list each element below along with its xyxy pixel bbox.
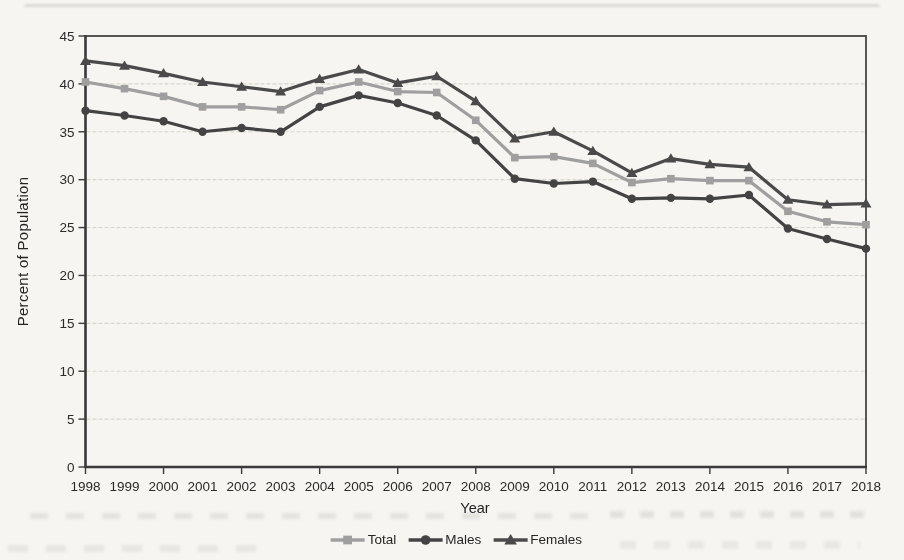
x-axis-title: Year bbox=[460, 500, 489, 516]
legend-item-males: Males bbox=[407, 532, 481, 547]
y-tick-label-0: 0 bbox=[67, 460, 75, 475]
legend-item-females: Females bbox=[492, 532, 582, 547]
y-tick-label-40: 40 bbox=[59, 77, 74, 92]
y-tick-label-5: 5 bbox=[67, 412, 75, 427]
x-tick-label-2001: 2001 bbox=[188, 479, 218, 494]
x-tick-label-2008: 2008 bbox=[461, 479, 491, 494]
legend-label-males: Males bbox=[445, 532, 481, 547]
data-series bbox=[80, 56, 872, 253]
y-tick-label-20: 20 bbox=[59, 268, 74, 283]
legend-label-females: Females bbox=[530, 532, 582, 547]
chart-canvas: 051015202530354045 199819992000200120022… bbox=[0, 0, 904, 528]
x-tick-label-2015: 2015 bbox=[734, 479, 764, 494]
legend-item-total: Total bbox=[330, 532, 397, 547]
line-chart-figure: 051015202530354045 199819992000200120022… bbox=[0, 0, 904, 560]
x-tick-label-2002: 2002 bbox=[227, 479, 257, 494]
y-tick-label-45: 45 bbox=[59, 29, 74, 44]
x-tick-label-2011: 2011 bbox=[578, 479, 607, 494]
x-tick-label-2016: 2016 bbox=[773, 479, 803, 494]
x-tick-label-2006: 2006 bbox=[383, 479, 413, 494]
x-tick-label-1999: 1999 bbox=[110, 479, 140, 494]
series-males-line bbox=[81, 91, 870, 253]
x-tick-label-2013: 2013 bbox=[656, 479, 686, 494]
x-tick-label-2007: 2007 bbox=[422, 479, 452, 494]
x-tick-label-2010: 2010 bbox=[539, 479, 569, 494]
y-axis-tick-labels: 051015202530354045 bbox=[59, 29, 74, 475]
chart-legend: Total Males Females bbox=[330, 532, 582, 547]
x-tick-label-2005: 2005 bbox=[344, 479, 374, 494]
axis-ticks bbox=[79, 36, 867, 474]
total-square-marker-icon bbox=[330, 533, 366, 547]
y-tick-label-30: 30 bbox=[59, 172, 74, 187]
legend-label-total: Total bbox=[368, 532, 397, 547]
x-tick-label-2014: 2014 bbox=[695, 479, 726, 494]
x-tick-label-2018: 2018 bbox=[851, 479, 881, 494]
x-axis-tick-labels: 1998199920002001200220032004200520062007… bbox=[70, 479, 881, 494]
y-tick-label-10: 10 bbox=[59, 364, 74, 379]
y-axis-title: Percent of Population bbox=[14, 177, 31, 327]
x-tick-label-1998: 1998 bbox=[70, 479, 100, 494]
x-tick-label-2004: 2004 bbox=[305, 479, 336, 494]
y-tick-label-35: 35 bbox=[59, 125, 74, 140]
x-tick-label-2009: 2009 bbox=[500, 479, 530, 494]
y-tick-label-25: 25 bbox=[59, 220, 74, 235]
x-tick-label-2012: 2012 bbox=[617, 479, 647, 494]
y-tick-label-15: 15 bbox=[59, 316, 74, 331]
x-tick-label-2000: 2000 bbox=[149, 479, 179, 494]
males-circle-marker-icon bbox=[407, 533, 443, 547]
scanned-page: 051015202530354045 199819992000200120022… bbox=[0, 0, 904, 560]
x-tick-label-2017: 2017 bbox=[812, 479, 842, 494]
x-tick-label-2003: 2003 bbox=[266, 479, 296, 494]
females-triangle-marker-icon bbox=[492, 533, 528, 547]
